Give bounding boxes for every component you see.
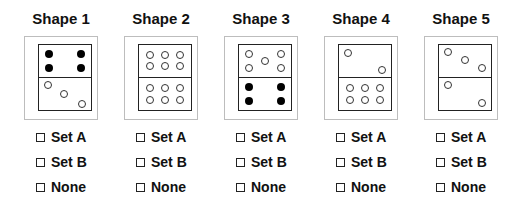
- hollow-dot-icon: [444, 81, 452, 89]
- option-set-b[interactable]: Set B: [336, 154, 387, 170]
- checkbox[interactable]: [136, 183, 145, 192]
- hollow-dot-icon: [478, 99, 486, 107]
- hollow-dot-icon: [245, 50, 253, 58]
- option-label: Set B: [451, 154, 487, 170]
- option-set-b[interactable]: Set B: [36, 154, 87, 170]
- option-set-a[interactable]: Set A: [236, 129, 286, 145]
- domino-shape: [38, 44, 92, 111]
- filled-dot-icon: [77, 64, 85, 72]
- filled-dot-icon: [277, 97, 285, 105]
- shape-title: Shape 3: [211, 10, 311, 27]
- hollow-dot-icon: [60, 90, 68, 98]
- option-label: None: [151, 179, 186, 195]
- hollow-dot-icon: [176, 62, 184, 70]
- checkbox[interactable]: [36, 133, 45, 142]
- checkbox[interactable]: [436, 183, 445, 192]
- option-label: Set B: [151, 154, 187, 170]
- hollow-dot-icon: [461, 56, 469, 64]
- hollow-dot-icon: [146, 51, 154, 59]
- hollow-dot-icon: [277, 50, 285, 58]
- option-set-b[interactable]: Set B: [236, 154, 287, 170]
- hollow-dot-icon: [261, 57, 269, 65]
- domino-top-half: [239, 45, 291, 78]
- option-label: None: [251, 179, 286, 195]
- option-none[interactable]: None: [336, 179, 386, 195]
- checkbox[interactable]: [436, 133, 445, 142]
- domino-bottom-half: [439, 78, 491, 111]
- shape-column-1: Shape 1Set ASet BNone: [11, 0, 111, 210]
- domino-top-half: [339, 45, 391, 78]
- hollow-dot-icon: [146, 84, 154, 92]
- hollow-dot-icon: [361, 96, 369, 104]
- hollow-dot-icon: [78, 100, 86, 108]
- filled-dot-icon: [45, 64, 53, 72]
- filled-dot-icon: [245, 83, 253, 91]
- checkbox[interactable]: [36, 158, 45, 167]
- shape-column-4: Shape 4Set ASet BNone: [311, 0, 411, 210]
- option-none[interactable]: None: [436, 179, 486, 195]
- option-none[interactable]: None: [236, 179, 286, 195]
- domino-bottom-half: [239, 78, 291, 111]
- hollow-dot-icon: [344, 49, 352, 57]
- hollow-dot-icon: [161, 84, 169, 92]
- filled-dot-icon: [245, 97, 253, 105]
- shape-frame: [424, 36, 498, 120]
- domino-top-half: [439, 45, 491, 78]
- hollow-dot-icon: [176, 96, 184, 104]
- shape-title: Shape 2: [111, 10, 211, 27]
- hollow-dot-icon: [376, 96, 384, 104]
- domino-shape: [438, 44, 492, 111]
- option-set-a[interactable]: Set A: [336, 129, 386, 145]
- shape-frame: [224, 36, 298, 120]
- hollow-dot-icon: [176, 84, 184, 92]
- option-none[interactable]: None: [36, 179, 86, 195]
- checkbox[interactable]: [36, 183, 45, 192]
- filled-dot-icon: [277, 83, 285, 91]
- option-label: Set B: [51, 154, 87, 170]
- option-label: Set B: [251, 154, 287, 170]
- option-label: None: [451, 179, 486, 195]
- shape-title: Shape 4: [311, 10, 411, 27]
- checkbox[interactable]: [336, 183, 345, 192]
- checkbox[interactable]: [236, 133, 245, 142]
- option-set-b[interactable]: Set B: [136, 154, 187, 170]
- hollow-dot-icon: [277, 64, 285, 72]
- hollow-dot-icon: [245, 64, 253, 72]
- shape-title: Shape 1: [11, 10, 111, 27]
- shape-column-2: Shape 2Set ASet BNone: [111, 0, 211, 210]
- domino-shape: [338, 44, 392, 111]
- hollow-dot-icon: [378, 66, 386, 74]
- domino-shape: [238, 44, 292, 111]
- hollow-dot-icon: [161, 51, 169, 59]
- domino-bottom-half: [39, 78, 91, 111]
- hollow-dot-icon: [161, 96, 169, 104]
- option-none[interactable]: None: [136, 179, 186, 195]
- checkbox[interactable]: [336, 133, 345, 142]
- domino-top-half: [139, 45, 191, 78]
- shape-title: Shape 5: [411, 10, 511, 27]
- checkbox[interactable]: [436, 158, 445, 167]
- hollow-dot-icon: [146, 96, 154, 104]
- hollow-dot-icon: [176, 51, 184, 59]
- shape-frame: [24, 36, 98, 120]
- option-label: None: [351, 179, 386, 195]
- hollow-dot-icon: [444, 48, 452, 56]
- domino-bottom-half: [339, 78, 391, 111]
- hollow-dot-icon: [346, 96, 354, 104]
- option-label: Set A: [251, 129, 286, 145]
- hollow-dot-icon: [346, 84, 354, 92]
- option-set-a[interactable]: Set A: [136, 129, 186, 145]
- shape-frame: [324, 36, 398, 120]
- domino-bottom-half: [139, 78, 191, 111]
- checkbox[interactable]: [336, 158, 345, 167]
- checkbox[interactable]: [236, 183, 245, 192]
- hollow-dot-icon: [161, 62, 169, 70]
- checkbox[interactable]: [136, 133, 145, 142]
- option-label: Set A: [151, 129, 186, 145]
- hollow-dot-icon: [44, 81, 52, 89]
- option-set-a[interactable]: Set A: [436, 129, 486, 145]
- checkbox[interactable]: [236, 158, 245, 167]
- option-set-a[interactable]: Set A: [36, 129, 86, 145]
- checkbox[interactable]: [136, 158, 145, 167]
- option-set-b[interactable]: Set B: [436, 154, 487, 170]
